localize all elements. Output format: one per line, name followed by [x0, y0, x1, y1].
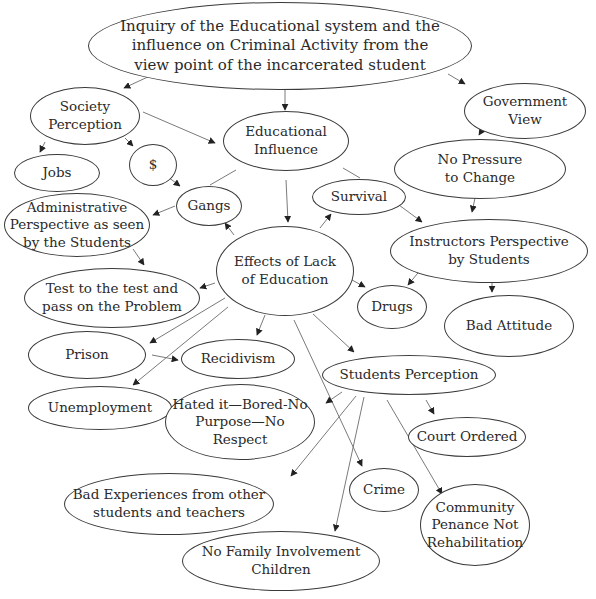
- node-prison: Prison: [28, 331, 146, 379]
- node-instructors-perspective: Instructors Perspective by Students: [390, 219, 588, 283]
- node-gangs: Gangs: [176, 186, 242, 226]
- node-bad-experiences: Bad Experiences from other students and …: [64, 473, 274, 535]
- edge-survival-instructors: [399, 205, 422, 222]
- node-administrative-perspective: Administrative Perspective as seen by th…: [4, 193, 150, 257]
- edge-admin-test: [133, 249, 144, 265]
- node-unemployment: Unemployment: [28, 386, 172, 430]
- node-effects-lack-education: Effects of Lack of Education: [216, 226, 354, 316]
- node-survival: Survival: [312, 179, 406, 215]
- node-educational-influence: Educational Influence: [223, 111, 349, 171]
- node-dollar: $: [129, 144, 177, 186]
- node-drugs: Drugs: [357, 285, 427, 329]
- edge-effects-gangs: [225, 223, 234, 235]
- node-society-perception: Society Perception: [30, 87, 140, 145]
- edge-educational-survival-line: [343, 168, 360, 178]
- node-bad-attitude: Bad Attitude: [444, 295, 574, 357]
- edge-effects-survival: [320, 214, 331, 228]
- node-recidivism: Recidivism: [181, 339, 295, 379]
- edge-society-dollar: [125, 138, 133, 146]
- edge-educational-effects: [286, 180, 288, 222]
- edge-effects-students: [313, 314, 354, 352]
- edge-society-jobs: [40, 142, 45, 152]
- node-community-penance: Community Penance Not Rehabilitation: [420, 484, 530, 566]
- edge-root-government: [448, 74, 465, 84]
- node-crime: Crime: [349, 468, 419, 512]
- node-hated-it: Hated it—Bored-No Purpose—No Respect: [165, 384, 315, 460]
- node-no-pressure: No Pressure to Change: [394, 139, 566, 199]
- edge-society-educational: [143, 112, 215, 143]
- node-no-family: No Family Involvement Children: [182, 531, 380, 591]
- node-root: Inquiry of the Educational system and th…: [88, 2, 472, 90]
- edge-nopressure-instructors: [472, 198, 475, 212]
- concept-map: Inquiry of the Educational system and th…: [0, 0, 596, 599]
- edge-effects-test: [200, 283, 215, 288]
- edge-educational-gangs-line: [210, 170, 236, 185]
- node-government-view: Government View: [464, 83, 586, 139]
- node-test-to-test: Test to the test and pass on the Problem: [24, 268, 200, 328]
- edge-gangs-admin: [153, 206, 175, 215]
- edge-students-court: [426, 400, 434, 414]
- edge-effects-recidivism: [257, 315, 265, 335]
- edge-effects-drugs: [352, 280, 365, 287]
- node-students-perception: Students Perception: [322, 355, 496, 395]
- node-court-ordered: Court Ordered: [408, 417, 526, 457]
- node-jobs: Jobs: [14, 154, 100, 192]
